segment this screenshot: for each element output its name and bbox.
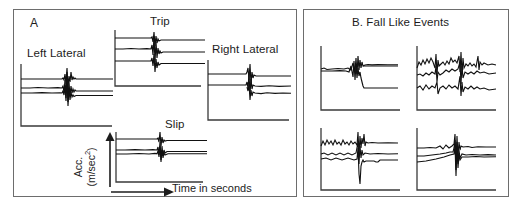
panel-a-letter: A	[30, 17, 38, 30]
x-axis-arrow	[111, 184, 175, 202]
plot-right-lateral	[205, 58, 293, 124]
plot-slip	[113, 130, 209, 186]
plot-fall-like-event-1	[318, 44, 406, 114]
plot-title-right-lateral: Right Lateral	[212, 43, 279, 56]
y-axis-arrow	[104, 131, 116, 191]
plot-title-left-lateral: Left Lateral	[27, 47, 86, 60]
y-axis-label-line1: Acc.	[72, 157, 84, 177]
plot-fall-like-event-3	[318, 126, 406, 194]
y-axis-label: Acc. (m/sec2)	[72, 138, 97, 196]
plot-title-slip: Slip	[165, 118, 185, 131]
y-axis-label-exponent: 2	[83, 151, 92, 155]
panel-b-title: B. Fall Like Events	[352, 16, 449, 29]
plot-trip	[113, 28, 207, 90]
plot-fall-like-event-2	[414, 44, 502, 114]
y-axis-label-line2-pre: (m/sec	[85, 155, 97, 187]
figure-container: A Left Lateral Trip Right Lateral Slip	[0, 0, 522, 218]
plot-left-lateral	[18, 62, 114, 130]
plot-fall-like-event-4	[414, 126, 502, 194]
y-axis-label-line2-post: )	[85, 147, 97, 151]
x-axis-label: Time in seconds	[172, 182, 252, 194]
plot-title-trip: Trip	[150, 15, 170, 28]
